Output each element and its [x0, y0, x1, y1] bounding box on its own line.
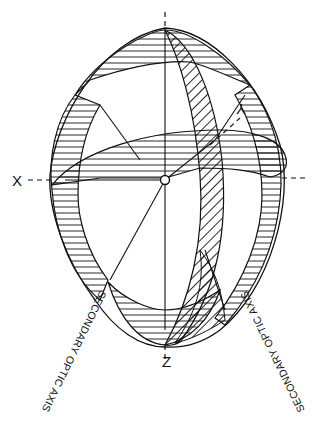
y-axis-label: Y: [236, 101, 246, 118]
left-secondary-optic-axis-label: SECONDARY OPTIC AXIS: [40, 289, 109, 414]
x-axis-label: X: [12, 172, 22, 189]
top-cap-section: [75, 30, 250, 95]
left-shell-section: [51, 95, 108, 300]
indicatrix-diagram: X Y Z SECONDARY OPTIC AXIS SECONDARY OPT…: [0, 0, 315, 427]
origin-point: [161, 176, 170, 185]
right-secondary-optic-axis-label: SECONDARY OPTIC AXIS: [238, 289, 307, 414]
z-axis-label: Z: [162, 353, 171, 370]
